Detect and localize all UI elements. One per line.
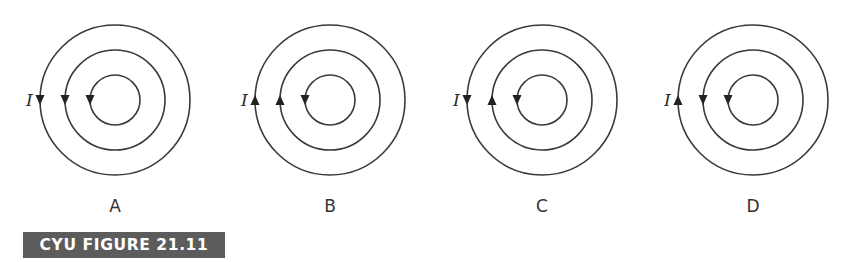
panel-label: A	[109, 196, 121, 216]
outer-current-arrow-icon	[251, 95, 260, 105]
outer-loop	[40, 25, 190, 175]
outer-current-arrow-icon	[36, 95, 45, 105]
inner-current-arrow-icon	[513, 95, 522, 105]
panel-d: I D	[663, 25, 828, 216]
current-symbol: I	[452, 90, 460, 110]
panel-label: C	[536, 196, 548, 216]
inner-loop	[728, 75, 778, 125]
outer-loop	[255, 25, 405, 175]
current-symbol: I	[240, 90, 248, 110]
middle-current-arrow-icon	[276, 95, 285, 105]
current-symbol: I	[663, 90, 671, 110]
concentric-loops-figure: I A I B I C I D	[0, 0, 850, 262]
figure-caption: CYU FIGURE 21.11	[40, 236, 209, 254]
outer-loop	[678, 25, 828, 175]
outer-current-arrow-icon	[463, 95, 472, 105]
inner-loop	[517, 75, 567, 125]
panel-a: I A	[25, 25, 190, 216]
panel-c: I C	[452, 25, 617, 216]
middle-current-arrow-icon	[488, 95, 497, 105]
inner-loop	[305, 75, 355, 125]
middle-loop	[65, 50, 165, 150]
middle-current-arrow-icon	[699, 95, 708, 105]
middle-loop	[280, 50, 380, 150]
middle-loop	[703, 50, 803, 150]
current-symbol: I	[25, 90, 33, 110]
outer-current-arrow-icon	[674, 95, 683, 105]
outer-loop	[467, 25, 617, 175]
panel-b: I B	[240, 25, 405, 216]
inner-current-arrow-icon	[724, 95, 733, 105]
panel-label: B	[324, 196, 336, 216]
inner-loop	[90, 75, 140, 125]
middle-loop	[492, 50, 592, 150]
figure-caption-badge: CYU FIGURE 21.11	[23, 232, 225, 258]
inner-current-arrow-icon	[301, 95, 310, 105]
inner-current-arrow-icon	[86, 95, 95, 105]
middle-current-arrow-icon	[61, 95, 70, 105]
panel-label: D	[746, 196, 759, 216]
